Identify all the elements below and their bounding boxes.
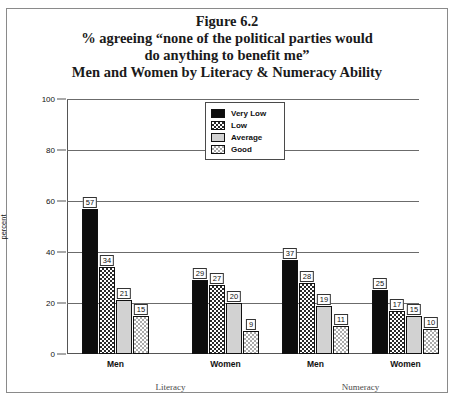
panel-label: Literacy (156, 382, 186, 392)
bar-value-label: 37 (283, 248, 297, 259)
title-line-3: do anything to benefit me” (7, 47, 447, 64)
y-tick-mark (57, 252, 66, 253)
bar-value-label: 9 (246, 319, 256, 330)
y-tick-mark (57, 303, 66, 304)
bar (192, 280, 208, 354)
x-axis-group-label: Women (390, 359, 421, 369)
bar (99, 267, 115, 354)
checkered-light-swatch (211, 145, 225, 154)
y-tick-mark (57, 354, 66, 355)
bar (389, 311, 405, 354)
solid-lightgray-swatch (211, 133, 225, 142)
legend-item-label: Good (231, 145, 252, 154)
y-tick-mark (57, 150, 66, 151)
bar-value-label: 21 (117, 288, 131, 299)
bar-value-label: 28 (300, 271, 314, 282)
legend-item[interactable]: Good (211, 143, 279, 155)
bar (116, 300, 132, 354)
y-tick-label: 60 (46, 197, 55, 206)
y-tick-label: 100 (42, 95, 55, 104)
bar-group-item: 10 (423, 99, 439, 354)
figure-title: Figure 6.2 % agreeing “none of the polit… (7, 13, 447, 81)
y-tick-label: 0 (51, 350, 55, 359)
bar-group-item: 34 (99, 99, 115, 354)
bar (226, 303, 242, 354)
bar (299, 283, 315, 354)
bar (133, 316, 149, 354)
bar (209, 285, 225, 354)
bar (82, 209, 98, 354)
chart-legend: Very LowLowAverageGood (205, 102, 285, 160)
bar-group-item: 21 (116, 99, 132, 354)
bar (282, 260, 298, 354)
bar-group-item: 57 (82, 99, 98, 354)
y-axis-title: percent (0, 214, 8, 239)
bar (372, 290, 388, 354)
solid-black-swatch (211, 109, 225, 118)
y-tick-mark (57, 201, 66, 202)
bar-value-label: 34 (100, 255, 114, 266)
bar-value-label: 15 (407, 304, 421, 315)
bar (423, 329, 439, 355)
y-tick-label: 20 (46, 299, 55, 308)
x-axis-group-label: Men (307, 359, 324, 369)
panel-label: Numeracy (342, 382, 379, 392)
legend-item-label: Average (231, 133, 262, 142)
bar-group-item: 11 (333, 99, 349, 354)
bar-group-item: 15 (406, 99, 422, 354)
checkered-dark-swatch (211, 121, 225, 130)
y-axis: percent 020406080100 (7, 99, 67, 354)
bar-value-label: 15 (134, 304, 148, 315)
bar (333, 326, 349, 354)
y-tick-label: 40 (46, 248, 55, 257)
bar-value-label: 57 (83, 197, 97, 208)
bar-value-label: 11 (334, 314, 348, 325)
bar-value-label: 20 (227, 291, 241, 302)
title-line-2: % agreeing “none of the political partie… (7, 30, 447, 47)
legend-item-label: Very Low (231, 109, 266, 118)
figure-frame: Figure 6.2 % agreeing “none of the polit… (6, 8, 448, 393)
y-tick-mark (57, 99, 66, 100)
bar-group-item: 17 (389, 99, 405, 354)
legend-item[interactable]: Very Low (211, 107, 279, 119)
bar-group-item: 19 (316, 99, 332, 354)
bar-value-label: 17 (390, 299, 404, 310)
bar-group-item: 15 (133, 99, 149, 354)
legend-item[interactable]: Average (211, 131, 279, 143)
bar (406, 316, 422, 354)
bar-value-label: 10 (424, 317, 438, 328)
legend-item-label: Low (231, 121, 247, 130)
y-tick-label: 80 (46, 146, 55, 155)
bar-value-label: 27 (210, 273, 224, 284)
title-line-4: Men and Women by Literacy & Numeracy Abi… (7, 64, 447, 81)
bar-group-item: 25 (372, 99, 388, 354)
x-axis-group-label: Men (107, 359, 124, 369)
legend-item[interactable]: Low (211, 119, 279, 131)
bar-value-label: 19 (317, 294, 331, 305)
bar-value-label: 25 (373, 278, 387, 289)
bar (243, 331, 259, 354)
bar-group-item: 28 (299, 99, 315, 354)
bar (316, 306, 332, 354)
title-line-1: Figure 6.2 (7, 13, 447, 30)
bar-value-label: 29 (193, 268, 207, 279)
x-axis-group-label: Women (210, 359, 241, 369)
